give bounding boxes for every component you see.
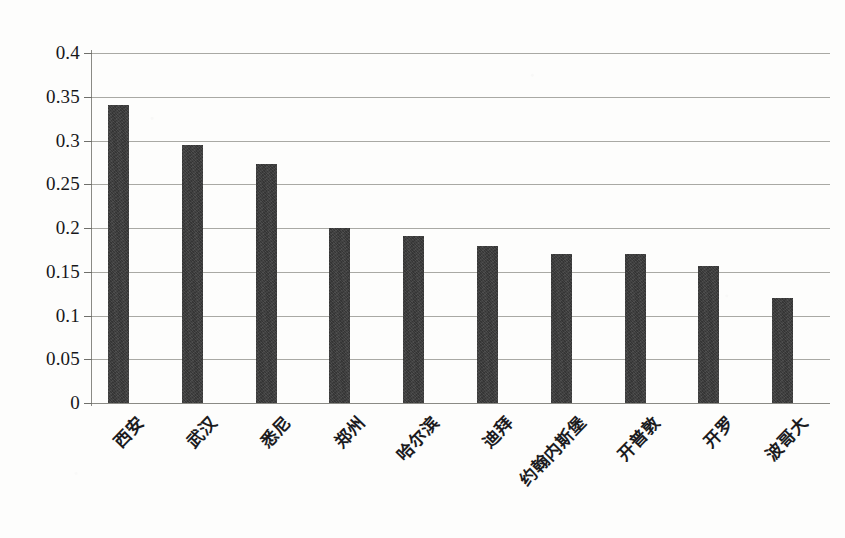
x-axis-tick-label: 哈尔滨 <box>389 410 443 465</box>
bar <box>772 298 793 403</box>
y-axis-tick-label: 0 <box>20 392 80 414</box>
y-axis-tick-label: 0.35 <box>20 86 80 108</box>
y-axis-tick-label: 0.25 <box>20 173 80 195</box>
x-axis-line <box>92 403 830 404</box>
y-axis-tick <box>84 141 92 142</box>
bar <box>108 105 129 403</box>
x-axis-tick-label: 开普敦 <box>611 410 665 465</box>
y-axis-tick-label: 0.15 <box>20 261 80 283</box>
x-axis-tick-label: 悉尼 <box>254 410 296 453</box>
x-axis-tick-label: 迪拜 <box>475 410 517 453</box>
gridline <box>92 53 830 54</box>
x-axis-tick-label: 西安 <box>106 410 148 453</box>
y-axis-tick-label: 0.2 <box>20 217 80 239</box>
y-axis-tick <box>84 272 92 273</box>
gridline <box>92 97 830 98</box>
bar <box>256 164 277 403</box>
y-axis-tick <box>84 359 92 360</box>
x-axis-tick-label: 波哥大 <box>758 410 812 465</box>
plot-area <box>92 53 830 403</box>
bar <box>182 145 203 403</box>
x-axis-tick-label: 开罗 <box>697 410 739 453</box>
y-axis-tick-labels: 00.050.10.150.20.250.30.350.4 <box>0 53 80 403</box>
gridline <box>92 141 830 142</box>
y-axis-tick <box>84 97 92 98</box>
bar <box>551 254 572 403</box>
y-axis-tick <box>84 316 92 317</box>
x-axis-tick-label: 约翰内斯堡 <box>513 410 592 490</box>
chart-page: 00.050.10.150.20.250.30.350.4 西安武汉悉尼郑州哈尔… <box>0 0 845 538</box>
y-axis-tick-label: 0.05 <box>20 348 80 370</box>
y-axis-tick-label: 0.3 <box>20 130 80 152</box>
bar <box>698 266 719 403</box>
x-axis-tick-label: 郑州 <box>328 410 370 453</box>
y-axis-tick <box>84 184 92 185</box>
bar <box>329 228 350 403</box>
y-axis-tick-label: 0.4 <box>20 42 80 64</box>
y-axis-tick <box>84 53 92 54</box>
bar <box>403 236 424 403</box>
y-axis-tick <box>84 228 92 229</box>
bar <box>625 254 646 403</box>
y-axis-tick-label: 0.1 <box>20 305 80 327</box>
y-axis-tick <box>84 403 92 404</box>
bar <box>477 246 498 403</box>
x-axis-tick-label: 武汉 <box>180 410 222 453</box>
